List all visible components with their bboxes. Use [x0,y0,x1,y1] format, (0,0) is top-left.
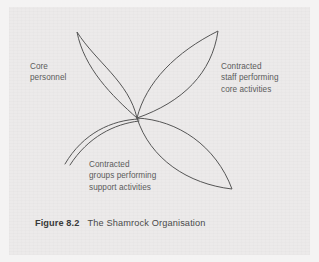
figure-page: Core personnel Contracted staff performi… [0,0,319,262]
label-contracted-groups: Contracted groups performing support act… [89,159,156,193]
stem-outer-line [65,119,139,164]
figure-caption: Figure 8.2The Shamrock Organisation [35,217,206,229]
label-contracted-groups-line-2: groups performing [89,171,156,180]
label-contracted-groups-line-1: Contracted [89,160,130,169]
upper-right-petal [137,31,218,118]
label-core-line-1: Core [30,62,48,71]
figure-caption-title: The Shamrock Organisation [87,218,205,228]
upper-left-petal [77,32,137,118]
label-core-personnel: Core personnel [30,61,66,84]
label-core-line-2: personnel [30,73,66,82]
label-contracted-staff-line-2: staff performing [221,73,279,82]
figure-caption-number: Figure 8.2 [35,218,79,228]
label-contracted-staff-line-3: core activities [221,85,271,94]
label-contracted-staff: Contracted staff performing core activit… [221,61,279,95]
label-contracted-staff-line-1: Contracted [221,62,262,71]
label-contracted-groups-line-3: support activities [89,183,151,192]
